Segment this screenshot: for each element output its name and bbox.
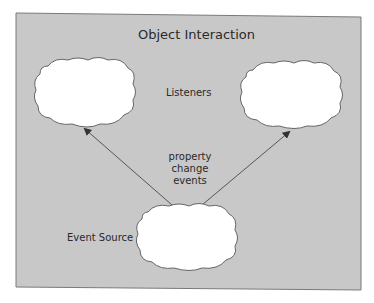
edge-label: property change events	[165, 151, 215, 187]
listeners-label: Listeners	[166, 87, 211, 98]
listener-cloud-left	[34, 58, 135, 128]
edge-label-line-2: change	[165, 163, 215, 175]
edge-label-line-1: property	[165, 151, 215, 163]
edge-label-line-3: events	[165, 175, 215, 187]
event-source-cloud	[136, 204, 237, 271]
diagram-title: Object Interaction	[138, 27, 255, 42]
event-source-label: Event Source	[67, 232, 133, 243]
listener-cloud-right	[240, 61, 342, 129]
